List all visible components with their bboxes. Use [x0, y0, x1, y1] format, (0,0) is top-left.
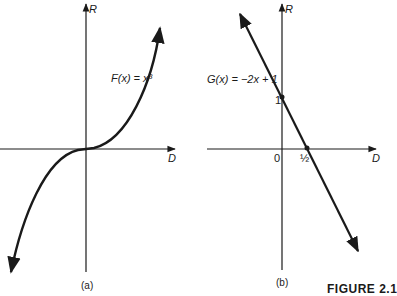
- panel-a-y-axis-label: R: [89, 4, 97, 15]
- panel-b-function-label: G(x) = −2x + 1: [207, 74, 278, 85]
- panel-a-caption: (a): [81, 281, 93, 291]
- panel-b-x-axis-label: D: [372, 153, 380, 164]
- origin-label: 0: [274, 153, 280, 164]
- figure-caption-label: FIGURE 2.1: [327, 283, 397, 295]
- y-intercept-label: 1: [275, 95, 281, 106]
- panel-b-caption: (b): [276, 278, 288, 288]
- panel-a-function-label: F(x) = x³: [111, 73, 152, 84]
- panel-b-linear-line: [240, 14, 358, 251]
- panel-a: [0, 4, 175, 272]
- panel-b-y-axis-label: R: [285, 4, 293, 15]
- panel-b: [207, 4, 376, 270]
- panel-a-x-axis-label: D: [168, 153, 176, 164]
- x-intercept-label: ½: [300, 153, 309, 164]
- x-intercept-point: [305, 146, 310, 151]
